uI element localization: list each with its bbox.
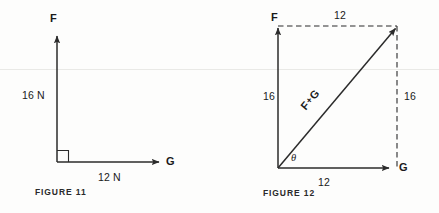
figure-12-magnitude-g: 12 [318,177,330,188]
figure-11-group [57,36,159,162]
figure-11-magnitude-f: 16 N [22,90,45,101]
figure-12-magnitude-top: 12 [334,10,346,21]
figure-12-resultant-shaft [278,29,396,169]
figure-11-right-angle-icon [57,151,69,163]
figures-canvas [0,0,439,213]
figure-11-label-g: G [166,156,175,167]
figure-12-angle-label: θ [291,153,296,164]
figure-12-magnitude-right: 16 [404,91,416,102]
figure-12-label-g: G [399,162,408,173]
figure-12-magnitude-f: 16 [263,91,275,102]
figure-11-magnitude-g: 12 N [98,172,121,183]
figure-12-label-f: F [271,12,278,23]
figure-12-caption: FIGURE 12 [263,189,315,198]
figure-11-caption: FIGURE 11 [35,188,87,197]
figure-11-label-f: F [50,13,57,24]
figure-12-group [278,26,397,169]
